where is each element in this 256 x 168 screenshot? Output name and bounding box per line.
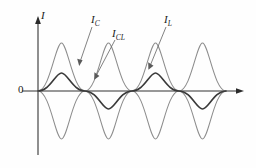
y-axis-label: I <box>41 10 45 21</box>
curve-label-ic: IC <box>91 14 100 28</box>
curve-label-icl: ICL <box>112 28 125 42</box>
current-waveform-figure: I 0 IC ICL IL <box>0 0 256 168</box>
waveform-plot <box>0 0 256 168</box>
curve-label-il-sub: L <box>168 19 172 28</box>
leader-line-icl <box>94 40 115 80</box>
curve-label-il: IL <box>164 14 172 28</box>
curve-label-ic-sub: C <box>95 19 100 28</box>
leader-line-ic <box>77 27 92 66</box>
vertical-axis <box>35 16 41 155</box>
curve-label-icl-sub: CL <box>116 33 125 42</box>
origin-label: 0 <box>18 84 24 95</box>
leader-line-il <box>148 27 166 70</box>
